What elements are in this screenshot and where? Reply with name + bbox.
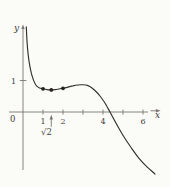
x-tick-label: 6 <box>140 117 145 126</box>
sqrt2-label: √2 <box>41 128 52 137</box>
marked-point <box>49 88 53 92</box>
x-tick-label: 1 <box>40 117 45 126</box>
y-axis-arrow-icon <box>21 25 24 30</box>
marked-point <box>61 86 65 90</box>
x-tick-label: 2 <box>60 117 65 126</box>
y-axis-label: y <box>14 24 19 33</box>
function-plot: 12461 <box>0 0 170 187</box>
y-tick-label: 1 <box>11 77 16 86</box>
x-tick-label: 4 <box>100 117 105 126</box>
marked-point <box>41 87 45 91</box>
x-axis-label: x <box>155 111 160 120</box>
origin-label: 0 <box>10 115 15 124</box>
curve-path <box>26 27 155 174</box>
figure: 12461 y x 0 √2 <box>0 0 170 187</box>
sqrt2-arrow-icon <box>50 115 53 120</box>
